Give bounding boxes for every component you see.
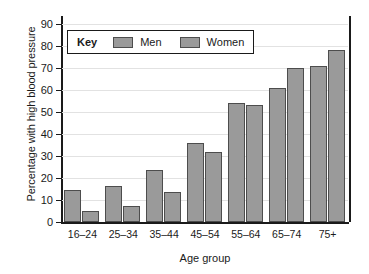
y-axis-tick-label: 20: [41, 172, 53, 184]
y-axis-title: Percentage with high blood pressure: [25, 9, 37, 219]
y-axis-tick-label: 60: [41, 84, 53, 96]
bar-women-25-34: [123, 206, 140, 223]
y-axis-tick: [56, 200, 61, 201]
bar-women-75+: [328, 50, 345, 222]
y-axis-tick: [56, 156, 61, 157]
bar-men-55-64: [228, 103, 245, 222]
bar-group: [310, 24, 346, 222]
bar-men-16-24: [64, 190, 81, 222]
legend-swatch-men: [113, 37, 133, 48]
y-axis-tick: [56, 90, 61, 91]
legend-key-label: Key: [77, 36, 97, 48]
bar-men-25-34: [105, 186, 122, 222]
bar-men-45-54: [187, 143, 204, 222]
x-axis-line: [61, 222, 349, 224]
y-axis-tick-label: 30: [41, 150, 53, 162]
bar-women-65-74: [287, 68, 304, 222]
bar-women-55-64: [246, 105, 263, 222]
y-axis-tick: [56, 178, 61, 179]
bar-men-65-74: [269, 88, 286, 222]
y-axis-tick-label: 50: [41, 106, 53, 118]
y-axis-tick-label: 70: [41, 62, 53, 74]
x-axis-title: Age group: [62, 252, 348, 264]
y-axis-tick: [56, 46, 61, 47]
bar-group: [269, 24, 305, 222]
y-axis-tick-label: 40: [41, 128, 53, 140]
legend-swatch-women: [180, 37, 200, 48]
plot-right-border: [349, 16, 351, 222]
bar-men-35-44: [146, 170, 163, 222]
y-axis-tick-label: 0: [47, 216, 53, 228]
y-axis-tick: [56, 24, 61, 25]
y-axis-tick-label: 80: [41, 40, 53, 52]
legend: Key Men Women: [67, 30, 254, 54]
y-axis-tick: [56, 68, 61, 69]
legend-label-men: Men: [140, 36, 161, 48]
x-axis-tick-label: 75+: [298, 228, 358, 240]
y-axis-tick-label: 90: [41, 18, 53, 30]
legend-label-women: Women: [207, 36, 245, 48]
bar-women-35-44: [164, 192, 181, 222]
bar-men-75+: [310, 66, 327, 222]
y-axis-tick: [56, 112, 61, 113]
legend-entry-men: Men: [113, 36, 161, 48]
bar-women-16-24: [82, 211, 99, 222]
legend-entry-women: Women: [180, 36, 245, 48]
y-axis-tick: [56, 134, 61, 135]
bar-women-45-54: [205, 152, 222, 222]
bar-chart: Percentage with high blood pressure 0102…: [0, 0, 369, 274]
y-axis-tick: [56, 222, 61, 223]
y-axis-tick-label: 10: [41, 194, 53, 206]
